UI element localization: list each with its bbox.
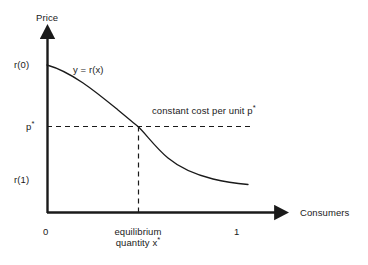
demand-curve <box>47 65 248 185</box>
constant-cost-label: constant cost per unit p* <box>152 105 256 116</box>
equilibrium-line-1: equilibrium <box>88 226 188 237</box>
constant-cost-asterisk: * <box>253 103 256 112</box>
y-tick-label-p-star: p* <box>26 121 34 132</box>
x-axis-title: Consumers <box>300 207 349 218</box>
figure-canvas: Price Consumers r(0) p* r(1) y = r(x) co… <box>0 0 368 265</box>
equilibrium-line-2-text: quantity x <box>116 237 158 248</box>
x-tick-label-zero: 0 <box>43 226 48 237</box>
y-tick-label-r1: r(1) <box>14 174 29 185</box>
y-axis-title: Price <box>36 12 58 23</box>
curve-label: y = r(x) <box>73 64 104 75</box>
equilibrium-asterisk: * <box>157 235 160 244</box>
equilibrium-line-2: quantity x* <box>88 237 188 248</box>
p-star-asterisk: * <box>31 119 34 128</box>
y-tick-label-r0: r(0) <box>14 59 29 70</box>
constant-cost-text: constant cost per unit p <box>152 105 253 116</box>
equilibrium-quantity-label: equilibrium quantity x* <box>88 226 188 248</box>
x-tick-label-one: 1 <box>234 226 239 237</box>
